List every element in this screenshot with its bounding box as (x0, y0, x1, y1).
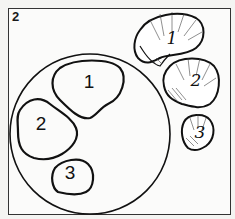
shell-3-label: 3 (195, 122, 206, 142)
region-2-label: 2 (36, 113, 47, 135)
shell-1-label: 1 (167, 28, 178, 48)
shell-2-label: 2 (191, 70, 202, 90)
panel-label: 2 (12, 9, 19, 24)
region-1-label: 1 (84, 71, 95, 93)
diagram-canvas (0, 0, 235, 219)
region-3-label: 3 (65, 162, 76, 184)
